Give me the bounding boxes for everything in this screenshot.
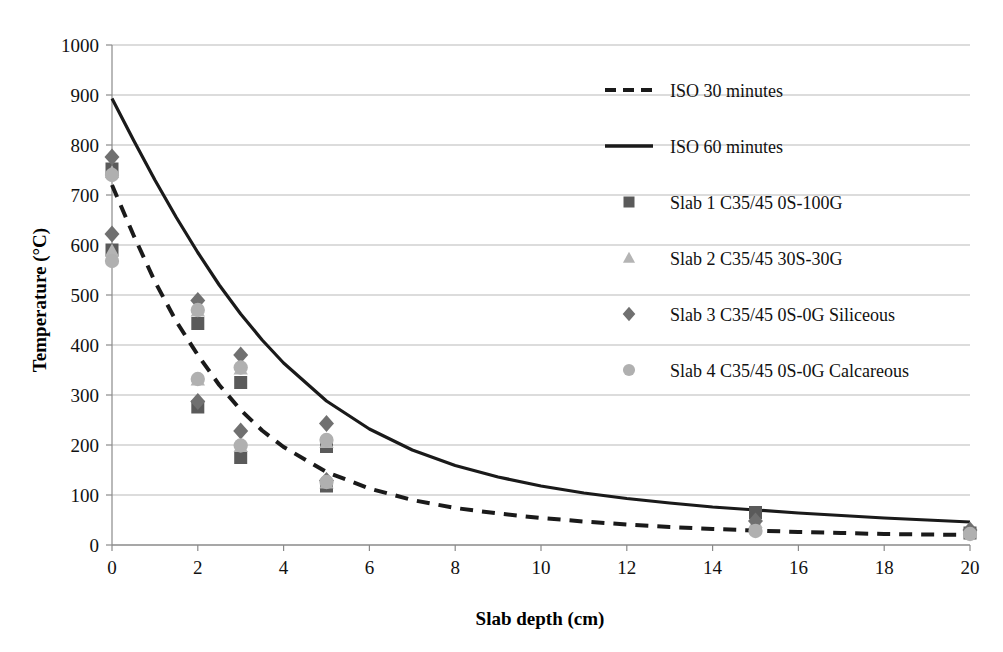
- y-axis-title: Temperature (°C): [29, 228, 51, 372]
- data-point-marker: [234, 438, 248, 452]
- data-point-marker: [105, 168, 119, 182]
- y-tick-label: 800: [71, 135, 100, 156]
- legend-label: ISO 60 minutes: [670, 137, 783, 157]
- legend-circle-icon: [623, 364, 635, 376]
- chart-background: [0, 0, 1003, 652]
- y-tick-label: 300: [71, 385, 100, 406]
- x-tick-label: 6: [365, 557, 375, 578]
- data-point-marker: [748, 524, 762, 538]
- chart-canvas: 01002003004005006007008009001000 0246810…: [0, 0, 1003, 652]
- data-point-marker: [191, 317, 204, 330]
- y-tick-label: 0: [90, 535, 100, 556]
- data-point-marker: [191, 303, 205, 317]
- legend-label: Slab 3 C35/45 0S-0G Siliceous: [670, 305, 895, 325]
- y-tick-label: 700: [71, 185, 100, 206]
- x-tick-label: 12: [617, 557, 636, 578]
- x-tick-label: 14: [703, 557, 723, 578]
- chart-figure: 01002003004005006007008009001000 0246810…: [0, 0, 1003, 652]
- y-tick-label: 100: [71, 485, 100, 506]
- x-tick-label: 0: [107, 557, 117, 578]
- data-point-marker: [319, 433, 333, 447]
- legend-label: ISO 30 minutes: [670, 81, 783, 101]
- legend-label: Slab 4 C35/45 0S-0G Calcareous: [670, 361, 909, 381]
- x-tick-label: 10: [532, 557, 551, 578]
- y-tick-label: 900: [71, 85, 100, 106]
- legend-square-icon: [624, 197, 635, 208]
- x-tick-label: 4: [279, 557, 289, 578]
- data-point-marker: [105, 254, 119, 268]
- data-point-marker: [963, 527, 977, 541]
- y-tick-label: 400: [71, 335, 100, 356]
- x-axis-title: Slab depth (cm): [476, 608, 605, 630]
- x-tick-label: 18: [875, 557, 894, 578]
- y-tick-label: 1000: [61, 35, 99, 56]
- data-point-marker: [234, 376, 247, 389]
- data-point-marker: [234, 451, 247, 464]
- data-point-marker: [191, 372, 205, 386]
- legend-label: Slab 1 C35/45 0S-100G: [670, 193, 843, 213]
- x-tick-label: 2: [193, 557, 203, 578]
- x-tick-label: 16: [789, 557, 808, 578]
- x-tick-label: 8: [450, 557, 460, 578]
- data-point-marker: [319, 475, 333, 489]
- y-tick-label: 500: [71, 285, 100, 306]
- y-tick-label: 600: [71, 235, 100, 256]
- data-point-marker: [234, 360, 248, 374]
- y-tick-label: 200: [71, 435, 100, 456]
- legend-label: Slab 2 C35/45 30S-30G: [670, 249, 843, 269]
- x-tick-label: 20: [961, 557, 980, 578]
